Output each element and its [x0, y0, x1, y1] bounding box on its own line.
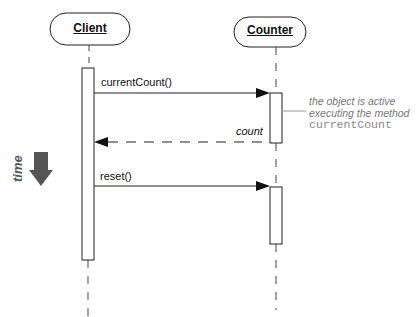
counter-activation-bar-2 — [270, 187, 282, 244]
time-arrow-shaft — [34, 152, 48, 170]
time-label: time — [10, 155, 25, 182]
count-return-label: count — [236, 125, 263, 137]
call-arrowhead-icon — [256, 181, 270, 191]
sequence-diagram-canvas — [0, 0, 416, 317]
note-line-1: the object is active — [309, 95, 409, 107]
client-activation-bar — [82, 68, 94, 260]
call-arrowhead-icon — [256, 88, 270, 98]
reset-message-label: reset() — [100, 170, 132, 182]
return-arrowhead-icon — [94, 137, 108, 147]
counter-object-label: Counter — [234, 23, 306, 37]
time-arrow-down-icon — [29, 170, 53, 186]
note-method-name: currentCount — [309, 119, 409, 131]
counter-activation-bar-1 — [270, 93, 282, 143]
currentcount-message-label: currentCount() — [101, 76, 172, 88]
activation-note: the object is active executing the metho… — [309, 95, 409, 131]
client-object-label: Client — [50, 21, 130, 35]
